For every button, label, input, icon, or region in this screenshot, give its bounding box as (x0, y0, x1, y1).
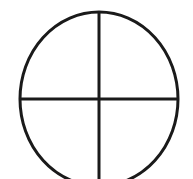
diagram-background (0, 0, 193, 179)
crossed-circle-diagram (0, 0, 193, 179)
figure-container: Crossed circle symbol A black circle out… (0, 0, 193, 179)
